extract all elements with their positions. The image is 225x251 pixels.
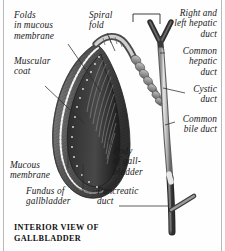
label-common-bile-duct: Common bile duct	[143, 114, 217, 135]
figure-caption: INTERIOR VIEW OF GALLBLADDER	[14, 222, 99, 244]
label-common-hepatic-duct: Common hepatic duct	[143, 46, 217, 77]
label-mucous-membrane: Mucous membrane	[10, 160, 50, 181]
label-muscular-coat: Muscular coat	[14, 56, 50, 77]
anatomy-figure-plate: Folds in mucous membrane Muscular coat M…	[0, 0, 225, 251]
label-spiral-fold: Spiral fold	[89, 10, 112, 31]
label-right-and-left-hepatic-duct: Right and left hepatic duct	[135, 8, 217, 39]
common-bile-duct-graphic	[161, 50, 172, 232]
label-cystic-duct: Cystic duct	[155, 84, 217, 105]
label-folds-in-mucous-membrane: Folds in mucous membrane	[14, 10, 54, 41]
label-pancreatic-duct: Pancreatic duct	[97, 186, 138, 207]
label-body-of-gallbladder: Body of gall- bladder	[113, 146, 143, 177]
label-fundus-of-gallbladder: Fundus of gallbladder	[26, 186, 70, 207]
